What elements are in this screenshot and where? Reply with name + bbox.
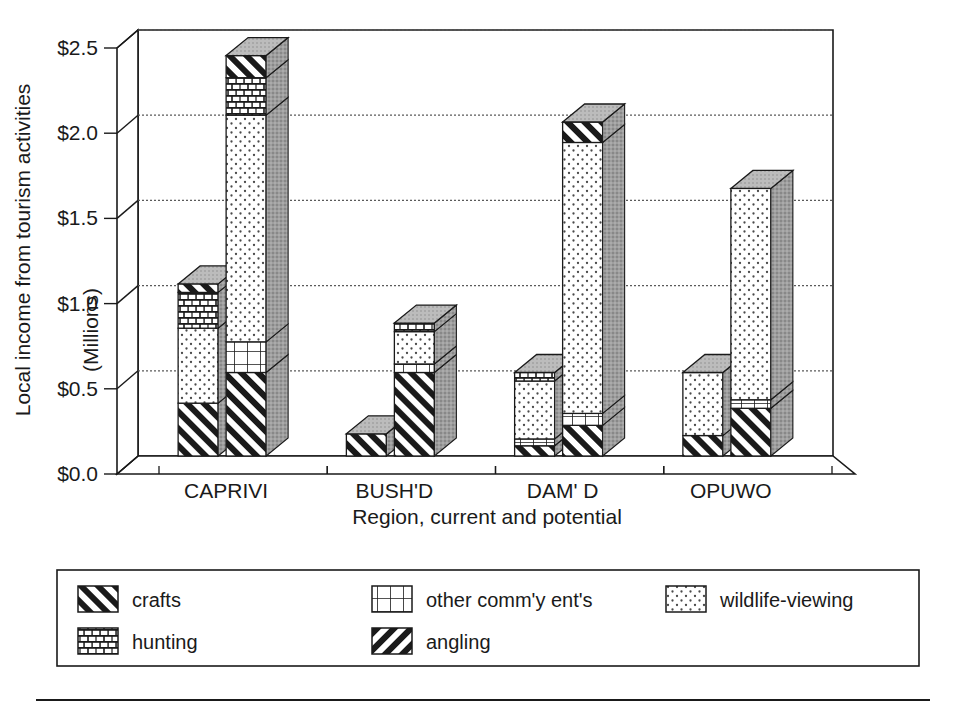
legend: craftshuntingother comm'y ent'sanglingwi… (57, 570, 919, 666)
x-axis-title: Region, current and potential (352, 505, 622, 528)
y-tick-label: $1.5 (57, 206, 98, 229)
legend-swatch-grid (372, 586, 412, 612)
legend-swatch-dots (666, 586, 706, 612)
x-category-label: BUSH'D (356, 479, 434, 502)
bar-segment-wildlifeviewing (515, 381, 555, 439)
bar-segment-side (771, 170, 793, 399)
bar-segment-crafts (346, 434, 386, 456)
x-category-label: DAM' D (527, 479, 599, 502)
legend-swatch-brick (78, 628, 118, 654)
bar-segment-crafts (226, 56, 266, 78)
legend-label: crafts (132, 589, 181, 611)
bar-segment-othercommyents (731, 400, 771, 409)
legend-label: angling (426, 631, 491, 653)
bar-segment-crafts (178, 284, 218, 293)
bar-segment-side (266, 97, 288, 342)
bar-segment-othercommyents (226, 342, 266, 373)
bar-segment-crafts (178, 403, 218, 456)
y-tick-label: $0.5 (57, 377, 98, 400)
y-tick-labels: $0.0$0.5$1.0$1.5$2.0$2.5 (57, 36, 98, 485)
bar-segment-crafts (394, 373, 434, 456)
bar-segment-wildlifeviewing (226, 115, 266, 342)
legend-label: other comm'y ent's (426, 589, 593, 611)
bar-segment-hunting (515, 373, 555, 382)
bar-caprivi-potential (226, 38, 288, 456)
bar-segment-crafts (731, 408, 771, 456)
chart-figure: Local income from tourism activities (Mi… (0, 0, 959, 718)
bar-segment-othercommyents (563, 413, 603, 425)
bar-segment-crafts (563, 425, 603, 456)
bar-segment-crafts (683, 436, 723, 456)
bar-segment-wildlifeviewing (731, 188, 771, 399)
bar-segment-side (603, 124, 625, 413)
legend-label: wildlife-viewing (719, 589, 853, 611)
x-category-label: OPUWO (690, 479, 772, 502)
bar-bushd-potential (394, 305, 456, 456)
legend-item-hunting[interactable]: hunting (78, 628, 198, 654)
y-axis-title: Local income from tourism activities (11, 84, 34, 417)
legend-item-angling[interactable]: angling (372, 628, 491, 654)
bar-segment-crafts (226, 373, 266, 456)
legend-item-wildlifeviewing[interactable]: wildlife-viewing (666, 586, 853, 612)
bar-segment-wildlifeviewing (394, 332, 434, 364)
bar-segment-crafts (563, 122, 603, 142)
bar-segment-hunting (394, 323, 434, 332)
bar-segment-hunting (178, 292, 218, 328)
legend-item-othercommyents[interactable]: other comm'y ent's (372, 586, 593, 612)
bar-segment-wildlifeviewing (683, 373, 723, 436)
x-category-labels: CAPRIVIBUSH'DDAM' DOPUWO (184, 479, 772, 502)
y-tick-label: $0.0 (57, 462, 98, 485)
y-tick-label: $2.0 (57, 121, 98, 144)
bar-segment-wildlifeviewing (178, 328, 218, 403)
bar-segment-crafts (515, 446, 555, 456)
x-category-label: CAPRIVI (184, 479, 268, 502)
bar-segment-wildlifeviewing (563, 142, 603, 413)
legend-swatch-diagonal-stripes-back (372, 628, 412, 654)
y-tick-label: $1.0 (57, 292, 98, 315)
legend-label: hunting (132, 631, 198, 653)
bar-opuwo-potential (731, 170, 793, 456)
bar-segment-hunting (226, 78, 266, 115)
bar-segment-othercommyents (394, 364, 434, 373)
bar-damd-potential (563, 104, 625, 456)
bar-segment-othercommyents (515, 439, 555, 446)
y-tick-label: $2.5 (57, 36, 98, 59)
legend-swatch-diagonal-stripes-forward (78, 586, 118, 612)
bar-chart-svg: Local income from tourism activities (Mi… (0, 0, 959, 718)
